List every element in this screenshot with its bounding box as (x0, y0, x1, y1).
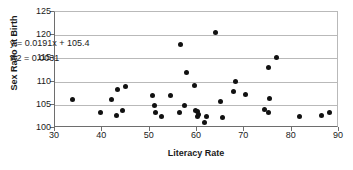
plot-area (54, 11, 338, 127)
data-point (196, 112, 201, 117)
x-axis-tick-label: 30 (42, 131, 66, 140)
data-point (192, 83, 197, 88)
data-point (202, 120, 207, 125)
data-point (120, 108, 125, 113)
data-point (168, 93, 173, 98)
data-point (327, 110, 332, 115)
x-axis-tick-label: 80 (279, 131, 303, 140)
y-axis-tick-label: 125 (25, 7, 51, 16)
data-point (267, 96, 272, 101)
data-point (123, 84, 128, 89)
data-point (178, 42, 183, 47)
x-axis-tick-label: 60 (184, 131, 208, 140)
data-point (115, 87, 120, 92)
data-point (266, 110, 271, 115)
data-point (319, 113, 324, 118)
data-point (243, 92, 248, 97)
data-point (177, 110, 182, 115)
x-axis-title: Literacy Rate (54, 148, 338, 158)
data-point (184, 70, 189, 75)
x-axis-tick-label: 40 (89, 131, 113, 140)
data-point (182, 103, 187, 108)
gridline (55, 35, 337, 36)
data-point (231, 89, 236, 94)
gridline (55, 58, 337, 59)
scatter-chart: 100105110115120125 30405060708090 Litera… (0, 0, 353, 170)
data-point (114, 113, 119, 118)
y-axis-tick-label: 110 (25, 77, 51, 86)
trendline-equation-label: y = 0.0191x + 105.4 (10, 38, 90, 48)
data-point (98, 110, 103, 115)
data-point (266, 65, 271, 70)
r-squared-label: R2 = 0.0031 (10, 53, 59, 63)
data-point (220, 115, 225, 120)
data-point (233, 79, 238, 84)
data-point (150, 93, 155, 98)
data-point (109, 97, 114, 102)
data-point (152, 103, 157, 108)
x-axis-tick-label: 90 (326, 131, 350, 140)
data-point (159, 114, 164, 119)
y-axis-tick-label: 105 (25, 100, 51, 109)
data-point (274, 55, 279, 60)
x-axis-tick-label: 70 (231, 131, 255, 140)
data-point (204, 114, 209, 119)
data-point (153, 110, 158, 115)
data-point (218, 99, 223, 104)
data-point (297, 114, 302, 119)
gridline (55, 82, 337, 83)
data-point (70, 97, 75, 102)
gridline (55, 105, 337, 106)
x-axis-tick-label: 50 (137, 131, 161, 140)
